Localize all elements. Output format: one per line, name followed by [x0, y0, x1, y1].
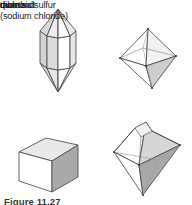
figure-caption: Figure 11.27: [4, 196, 61, 205]
crystal-shapes-figure: quartz diamond: [0, 0, 192, 205]
rhombic-sulfur-crystal-illustration: [0, 0, 192, 205]
